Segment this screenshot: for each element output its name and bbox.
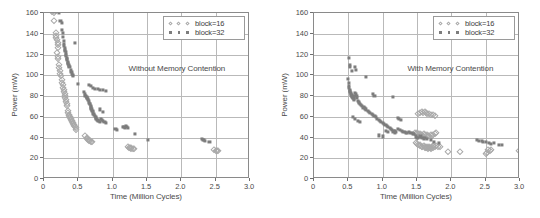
legend-label: block=32 [195, 28, 224, 37]
y-axis-tick [40, 12, 43, 13]
data-point-block32 [60, 22, 63, 25]
data-point-block32 [61, 35, 64, 38]
data-point-block32 [358, 120, 361, 123]
y-axis-tick-label: 160 [10, 8, 38, 17]
y-axis-tick-label: 20 [10, 153, 38, 162]
x-axis-tick [382, 178, 383, 181]
data-point-block32 [104, 89, 107, 92]
legend: block=16block=32 [433, 16, 515, 40]
data-point-block32 [437, 141, 440, 144]
data-point-block16 [456, 148, 464, 156]
x-axis-tick [215, 178, 216, 181]
data-point-block32 [104, 121, 107, 124]
y-axis-tick [310, 54, 313, 55]
y-axis-tick [40, 157, 43, 158]
y-axis-tick [310, 74, 313, 75]
legend-label: block=32 [465, 28, 494, 37]
plot-annotation: With Memory Contention [407, 64, 493, 73]
data-point-block32 [350, 70, 353, 73]
y-axis-tick [40, 137, 43, 138]
y-axis-tick [310, 12, 313, 13]
x-axis-tick-label: 0.5 [72, 182, 82, 191]
legend-label: block=16 [465, 19, 494, 28]
x-axis-tick [43, 178, 44, 181]
x-axis-tick-label: 3.0 [244, 182, 254, 191]
x-axis-tick-label: 1.5 [141, 182, 151, 191]
y-axis-tick [40, 95, 43, 96]
y-axis-tick [310, 137, 313, 138]
data-point-block32 [433, 140, 436, 143]
y-axis-tick [310, 116, 313, 117]
x-axis-tick-label: 2.5 [210, 182, 220, 191]
data-point-block32 [393, 132, 396, 135]
legend-item[interactable]: block=32 [166, 28, 241, 37]
x-axis-title: Time (Million Cycles) [43, 192, 249, 201]
y-axis-tick-label: 0 [280, 174, 308, 183]
x-axis-tick [313, 178, 314, 181]
x-axis-tick [146, 178, 147, 181]
data-point-block32 [204, 139, 207, 142]
x-axis-tick-label: 0 [311, 182, 315, 191]
data-point-block32 [399, 118, 402, 121]
panel-with-contention: 02040608010012014016000.51.01.52.02.53.0… [270, 0, 540, 218]
x-axis-tick-label: 1.5 [411, 182, 421, 191]
x-axis-tick [519, 178, 520, 181]
filled-square-marker-icon [166, 28, 192, 37]
data-point-block32 [387, 131, 390, 134]
x-axis-tick [485, 178, 486, 181]
y-axis-tick [310, 157, 313, 158]
data-point-block32 [102, 110, 105, 113]
y-axis-tick-label: 140 [10, 28, 38, 37]
x-axis-tick-label: 2.0 [175, 182, 185, 191]
x-axis-tick [347, 178, 348, 181]
data-point-block32 [492, 141, 495, 144]
data-point-block32 [364, 76, 367, 79]
x-axis-tick-label: 1.0 [107, 182, 117, 191]
data-point-block32 [115, 129, 118, 132]
data-point-block32 [501, 143, 504, 146]
y-axis-tick-label: 160 [280, 8, 308, 17]
y-axis-tick [40, 54, 43, 55]
y-axis-tick [310, 95, 313, 96]
y-axis-tick [40, 116, 43, 117]
figure-container: 02040608010012014016000.51.01.52.02.53.0… [0, 0, 540, 218]
y-axis-tick-label: 0 [10, 174, 38, 183]
legend-label: block=16 [195, 19, 224, 28]
legend-item[interactable]: block=32 [436, 28, 511, 37]
data-point-block32 [381, 135, 384, 138]
x-axis-tick [77, 178, 78, 181]
x-axis-tick-label: 1.0 [377, 182, 387, 191]
plot-annotation: Without Memory Contention [129, 64, 226, 73]
x-axis-tick [416, 178, 417, 181]
data-point-block32 [146, 138, 149, 141]
x-axis-tick-label: 0.5 [342, 182, 352, 191]
data-point-block16 [50, 17, 58, 25]
y-axis-tick [40, 74, 43, 75]
data-point-block32 [126, 127, 129, 130]
x-axis-tick-label: 2.0 [445, 182, 455, 191]
y-axis-tick [310, 33, 313, 34]
legend-item[interactable]: block=16 [436, 19, 511, 28]
data-point-block32 [349, 65, 352, 68]
legend-item[interactable]: block=16 [166, 19, 241, 28]
x-axis-tick [249, 178, 250, 181]
data-point-block32 [354, 69, 357, 72]
panel-without-contention: 02040608010012014016000.51.01.52.02.53.0… [0, 0, 270, 218]
data-point-block32 [73, 42, 76, 45]
data-point-block32 [373, 94, 376, 97]
data-point-block32 [61, 31, 64, 34]
y-axis-tick-label: 20 [280, 153, 308, 162]
y-axis-title: Power (mW) [10, 73, 19, 116]
x-axis-tick [450, 178, 451, 181]
data-point-block16 [515, 147, 518, 155]
x-axis-tick-label: 0 [41, 182, 45, 191]
y-axis-title: Power (mW) [280, 73, 289, 116]
data-point-block32 [347, 56, 350, 59]
data-point-block16 [444, 148, 452, 156]
y-axis-tick-label: 40 [280, 132, 308, 141]
data-point-block32 [134, 133, 137, 136]
data-point-block32 [77, 82, 80, 85]
x-axis-title: Time (Million Cycles) [313, 192, 519, 201]
data-point-block32 [208, 140, 211, 143]
data-point-block32 [72, 75, 75, 78]
